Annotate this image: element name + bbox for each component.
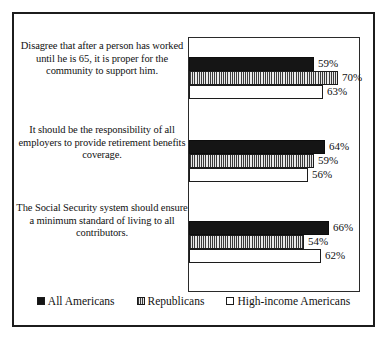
category-label-column: Disagree that after a person has worked … bbox=[16, 24, 188, 280]
category-label-1: It should be the responsibility of all e… bbox=[16, 124, 188, 162]
bar-group-0: 59% 70% 63% bbox=[189, 57, 359, 99]
bar-row: 62% bbox=[189, 249, 359, 263]
category-label-0: Disagree that after a person has worked … bbox=[16, 40, 188, 78]
bar-row: 70% bbox=[189, 71, 359, 85]
bar-value-label: 66% bbox=[329, 220, 353, 235]
bar-value-label: 64% bbox=[325, 139, 349, 154]
bar-row: 59% bbox=[189, 57, 359, 71]
legend-item-republicans: Republicans bbox=[137, 295, 205, 307]
bar-value-label: 62% bbox=[321, 248, 345, 263]
bar-high-income-2 bbox=[189, 249, 321, 263]
bar-value-label: 59% bbox=[314, 153, 338, 168]
legend-label: High-income Americans bbox=[237, 295, 350, 307]
bar-group-2: 66% 54% 62% bbox=[189, 221, 359, 263]
plot-inner: 59% 70% 63% 64% 59% 56% 66% 54% 62% bbox=[189, 38, 359, 291]
legend-item-all-americans: All Americans bbox=[37, 295, 115, 307]
bar-group-1: 64% 59% 56% bbox=[189, 140, 359, 182]
bar-row: 66% bbox=[189, 221, 359, 235]
bar-high-income-1 bbox=[189, 168, 308, 182]
plot-area: 59% 70% 63% 64% 59% 56% 66% 54% 62% bbox=[188, 37, 360, 292]
bar-all-americans-2 bbox=[189, 221, 329, 235]
category-label-2: The Social Security system should ensure… bbox=[16, 202, 188, 240]
bar-all-americans-1 bbox=[189, 140, 325, 154]
bar-row: 56% bbox=[189, 168, 359, 182]
bar-all-americans-0 bbox=[189, 57, 314, 71]
chart-legend: All Americans Republicans High-income Am… bbox=[16, 281, 371, 321]
chart-body: Disagree that after a person has worked … bbox=[14, 14, 373, 282]
bar-row: 63% bbox=[189, 85, 359, 99]
bar-high-income-0 bbox=[189, 85, 323, 99]
chart-figure: Disagree that after a person has worked … bbox=[12, 12, 375, 327]
legend-swatch-icon bbox=[226, 297, 234, 305]
bar-value-label: 59% bbox=[314, 56, 338, 71]
bar-row: 64% bbox=[189, 140, 359, 154]
bar-row: 54% bbox=[189, 235, 359, 249]
bar-value-label: 56% bbox=[308, 167, 332, 182]
legend-label: All Americans bbox=[48, 295, 115, 307]
legend-swatch-icon bbox=[137, 297, 145, 305]
bar-republicans-1 bbox=[189, 154, 314, 168]
legend-label: Republicans bbox=[148, 295, 205, 307]
bar-republicans-2 bbox=[189, 235, 304, 249]
bar-republicans-0 bbox=[189, 71, 338, 85]
bar-row: 59% bbox=[189, 154, 359, 168]
legend-item-high-income-americans: High-income Americans bbox=[226, 295, 350, 307]
legend-swatch-icon bbox=[37, 297, 45, 305]
bar-value-label: 70% bbox=[338, 70, 362, 85]
bar-value-label: 54% bbox=[304, 234, 328, 249]
bar-value-label: 63% bbox=[323, 84, 347, 99]
